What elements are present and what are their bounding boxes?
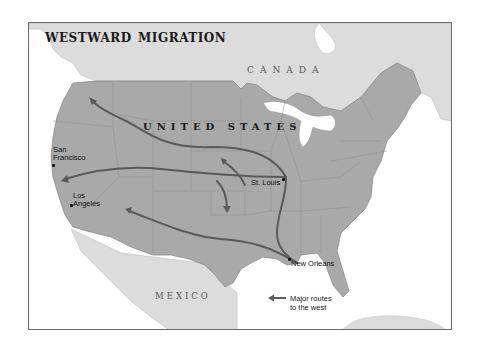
city-san-francisco: San Francisco xyxy=(53,146,86,162)
label-mexico: MEXICO xyxy=(155,291,211,301)
city-dot-new-orleans xyxy=(288,258,291,261)
label-united-states: UNITED STATES xyxy=(143,121,301,132)
arrow-left-icon xyxy=(268,294,286,302)
label-canada: CANADA xyxy=(247,65,324,75)
city-dot-los-angeles xyxy=(70,204,73,207)
city-dot-san-francisco xyxy=(52,164,55,167)
city-st-louis: St. Louis xyxy=(251,179,280,187)
city-los-angeles: Los Angeles xyxy=(73,192,100,208)
city-dot-st-louis xyxy=(282,178,285,181)
legend-label: Major routes to the west xyxy=(290,294,332,312)
map-canvas xyxy=(29,23,452,330)
map-title: westward migration xyxy=(45,26,226,46)
map-frame: westward migration CANADA UNITED STATES … xyxy=(28,22,452,330)
map-legend: Major routes to the west xyxy=(268,294,332,312)
city-new-orleans: New Orleans xyxy=(291,260,334,268)
